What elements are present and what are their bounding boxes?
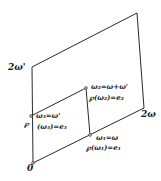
- label-origin: 0: [27, 164, 33, 173]
- label-two-omega-prime: 2ω': [8, 63, 26, 72]
- label-omega1-value: ℘(ω₁)=e₁: [86, 144, 121, 151]
- label-omega3-wp: ℘: [24, 120, 29, 127]
- label-omega2-value: ℘(ω₂)=e₂: [89, 94, 124, 101]
- label-omega2-def: ω₂=ω+ω': [91, 83, 128, 90]
- period-parallelogram-diagram: [0, 0, 161, 181]
- label-two-omega: 2ω: [141, 110, 156, 119]
- label-omega3-value: (ω₃)=e₃: [37, 123, 67, 130]
- omega2-point: [85, 87, 88, 90]
- label-omega3-def: ω₃=ω': [36, 112, 60, 119]
- omega3-point: [30, 115, 33, 118]
- omega1-point: [89, 134, 92, 137]
- label-omega1-def: ω₁=ω: [96, 134, 118, 141]
